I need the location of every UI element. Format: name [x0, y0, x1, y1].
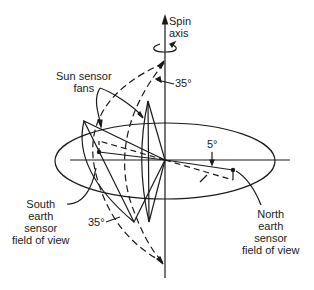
spin-axis-label: Spin axis — [169, 15, 191, 39]
sun-sensor-fan-right — [148, 101, 165, 222]
spin-axis-arrowhead — [163, 16, 168, 24]
north-sensor-label: North earth sensor field of view — [242, 208, 299, 256]
sun-sensor-fans-label: Sun sensor fans — [56, 70, 112, 94]
south-sensor-label: South earth sensor field of view — [12, 198, 69, 246]
angle-label-top: 35° — [175, 77, 192, 89]
angle-label-small: 5° — [207, 138, 218, 150]
dashed-arc-inner — [125, 63, 164, 262]
angle-label-bottom: 35° — [88, 216, 105, 228]
